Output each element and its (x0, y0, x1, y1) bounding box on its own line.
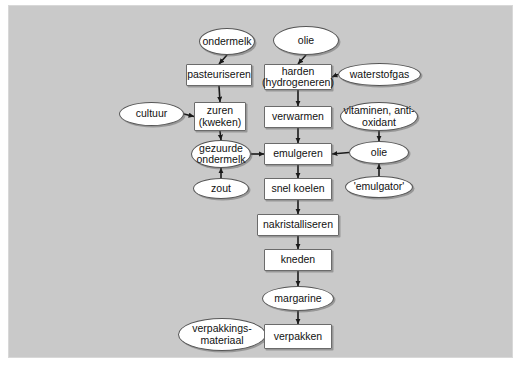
node-verpakkingsmateriaal: verpakkings- materiaal (178, 318, 266, 351)
node-label: snel koelen (269, 183, 326, 195)
node-olie_right: olie (349, 141, 409, 164)
node-label: margarine (272, 293, 323, 305)
node-vitaminen: vitaminen, anti-oxidant (340, 102, 418, 131)
node-label: pasteuriseren (185, 69, 253, 81)
node-emulgeren: emulgeren (264, 143, 332, 165)
node-label: emulgeren (271, 148, 325, 160)
node-label: olie (296, 35, 316, 47)
node-gezuurde: gezuurde ondermelk (191, 140, 251, 168)
node-label: vitaminen, anti-oxidant (341, 105, 417, 128)
edge-olie_right-to-emulgeren (332, 153, 349, 155)
node-label: cultuur (134, 108, 170, 120)
node-label: harden (hydrogeneren) (260, 66, 336, 89)
node-kneden: kneden (264, 249, 332, 271)
node-label: verpakken (272, 331, 324, 343)
node-label: zuren (kweken) (195, 105, 245, 128)
node-zuren: zuren (kweken) (194, 102, 246, 131)
node-label: gezuurde ondermelk (192, 143, 250, 166)
node-label: 'emulgator' (352, 181, 407, 193)
edge-zuren-to-gezuurde (220, 131, 221, 140)
edge-cultuur-to-zuren (184, 114, 194, 117)
node-verwarmen: verwarmen (264, 106, 332, 128)
diagram-canvas: ondermelkoliepasteuriserenharden (hydrog… (8, 5, 513, 358)
node-zout: zout (193, 178, 249, 199)
node-label: kneden (279, 254, 317, 266)
node-label: ondermelk (200, 36, 253, 48)
node-snel_koelen: snel koelen (264, 178, 332, 200)
node-pasteuriseren: pasteuriseren (186, 64, 252, 86)
node-olie_top: olie (273, 26, 339, 55)
node-harden: harden (hydrogeneren) (264, 64, 332, 90)
node-label: nakristalliseren (261, 219, 335, 231)
node-waterstofgas: waterstofgas (338, 63, 421, 86)
node-label: waterstofgas (348, 69, 412, 81)
node-margarine: margarine (262, 286, 334, 311)
node-emulgator: 'emulgator' (345, 176, 413, 198)
node-nakristalliseren: nakristalliseren (257, 214, 339, 236)
node-ondermelk: ondermelk (199, 28, 255, 55)
diagram-connectors (9, 6, 514, 359)
node-cultuur: cultuur (119, 102, 184, 126)
edge-pasteuriseren-to-zuren (219, 86, 220, 102)
node-label: verwarmen (270, 111, 326, 123)
node-label: olie (369, 147, 389, 159)
node-label: verpakkings- materiaal (179, 323, 265, 346)
edge-olie_top-to-harden (298, 55, 306, 64)
node-verpakken: verpakken (264, 324, 332, 349)
edge-ondermelk-to-pasteuriseren (219, 55, 227, 64)
node-label: zout (209, 183, 233, 195)
